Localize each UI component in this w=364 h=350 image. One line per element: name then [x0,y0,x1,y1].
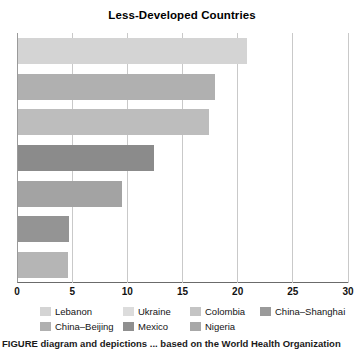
bar-fill [18,216,69,242]
bar-fill [18,181,122,207]
legend-label: Nigeria [205,321,235,332]
bar-lebanon [18,38,247,64]
bar-fill [18,74,215,100]
legend-item-ukraine[interactable]: Ukraine [123,306,171,317]
gridline-20 [237,33,238,283]
figure-caption: FIGURE diagram and depictions ... based … [2,338,364,350]
legend-swatch-icon [123,322,134,331]
x-tick-label-20: 20 [232,286,243,297]
x-tick-label-0: 0 [14,286,20,297]
gridline-15 [182,33,183,283]
x-tick-label-10: 10 [122,286,133,297]
legend-swatch-icon [123,307,134,316]
chart-title: Less-Developed Countries [0,9,364,21]
legend-row: China–BeijingMexicoNigeria [40,320,360,333]
legend-swatch-icon [40,322,51,331]
legend-swatch-icon [40,307,51,316]
x-tick-label-25: 25 [287,286,298,297]
legend-label: Mexico [138,321,168,332]
legend-item-lebanon[interactable]: Lebanon [40,306,92,317]
legend-swatch-icon [260,307,271,316]
bar-china-shanghai [18,145,154,171]
legend-item-china-shanghai[interactable]: China–Shanghai [260,306,345,317]
legend-item-nigeria[interactable]: Nigeria [190,321,235,332]
x-axis: 051015202530 [0,286,364,302]
bar-colombia [18,109,209,135]
legend-label: Lebanon [55,306,92,317]
legend-item-mexico[interactable]: Mexico [123,321,168,332]
bar-fill [18,38,247,64]
legend-swatch-icon [190,307,201,316]
bar-fill [18,109,209,135]
bar-fill [18,252,68,278]
legend-label: China–Beijing [55,321,114,332]
x-tick-label-15: 15 [177,286,188,297]
bar-fill [18,145,154,171]
plot-area [17,33,348,283]
bar-ukraine [18,74,215,100]
bar-nigeria [18,252,68,278]
legend-row: LebanonUkraineColombiaChina–Shanghai [40,305,360,318]
legend-item-colombia[interactable]: Colombia [190,306,245,317]
chart-legend: LebanonUkraineColombiaChina–ShanghaiChin… [40,305,360,335]
legend-label: China–Shanghai [275,306,345,317]
legend-swatch-icon [190,322,201,331]
legend-item-china-beijing[interactable]: China–Beijing [40,321,114,332]
bar-china-beijing [18,181,122,207]
x-tick-label-30: 30 [342,286,353,297]
x-tick-label-5: 5 [69,286,75,297]
legend-label: Ukraine [138,306,171,317]
gridline-30 [348,33,349,283]
legend-label: Colombia [205,306,245,317]
bar-mexico [18,216,69,242]
gridline-25 [292,33,293,283]
